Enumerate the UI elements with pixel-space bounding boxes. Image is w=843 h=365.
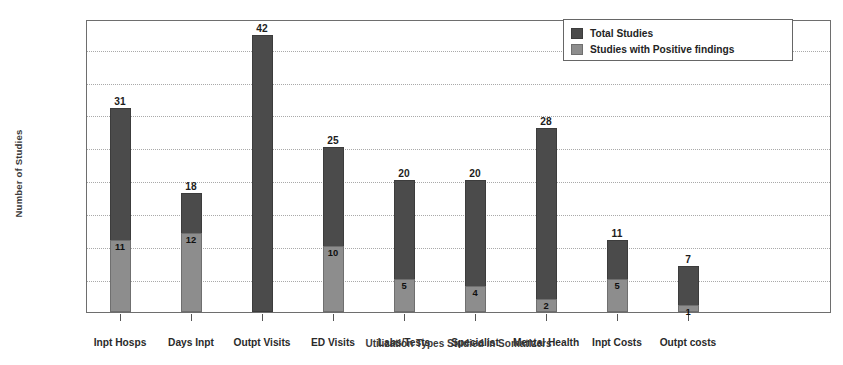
bar-group: 511 bbox=[607, 240, 628, 312]
chart-figure: Number of Studies 0510152025303540 Inpt … bbox=[0, 0, 843, 365]
gridline bbox=[87, 149, 830, 150]
legend-item-total: Total Studies bbox=[571, 25, 785, 41]
legend-swatch-positive-findings bbox=[571, 44, 583, 55]
bar-value-label-total: 11 bbox=[587, 228, 647, 239]
bar-value-label-total: 25 bbox=[303, 135, 363, 146]
legend-item-positive: Studies with Positive findings bbox=[571, 41, 785, 57]
bar-value-label-positive: 11 bbox=[90, 241, 150, 252]
legend-swatch-total-studies bbox=[571, 28, 583, 39]
bar-value-label-positive: 5 bbox=[374, 280, 434, 291]
y-axis-title: Number of Studies bbox=[13, 94, 24, 254]
x-axis-title: Utilization Types Studied in Somatizers bbox=[86, 338, 831, 349]
bar-value-label-total: 28 bbox=[516, 116, 576, 127]
x-tick bbox=[404, 314, 405, 321]
x-tick bbox=[191, 314, 192, 321]
bar-segment-total-studies bbox=[536, 128, 557, 312]
bar-value-label-total: 18 bbox=[161, 181, 221, 192]
bar-value-label-total: 31 bbox=[90, 96, 150, 107]
gridline bbox=[87, 116, 830, 117]
legend-label-positive-findings: Studies with Positive findings bbox=[590, 44, 734, 55]
bar-group: 42 bbox=[252, 35, 273, 312]
bar-group: 17 bbox=[678, 266, 699, 312]
bar-value-label-positive: 1 bbox=[658, 306, 718, 317]
bar-value-label-positive: 12 bbox=[161, 234, 221, 245]
bar-group: 1025 bbox=[323, 147, 344, 312]
bar-group: 420 bbox=[465, 180, 486, 312]
bar-value-label-total: 7 bbox=[658, 254, 718, 265]
x-tick bbox=[120, 314, 121, 321]
x-tick bbox=[475, 314, 476, 321]
bar-group: 520 bbox=[394, 180, 415, 312]
bar-group: 228 bbox=[536, 128, 557, 312]
bar-value-label-positive: 5 bbox=[587, 280, 647, 291]
plot-area: 0510152025303540 Inpt HospsDays InptOutp… bbox=[86, 20, 831, 313]
bar-value-label-positive: 4 bbox=[445, 287, 505, 298]
legend-label-total-studies: Total Studies bbox=[590, 28, 653, 39]
bar-segment-total-studies bbox=[252, 35, 273, 312]
chart-legend: Total Studies Studies with Positive find… bbox=[563, 19, 793, 61]
x-tick bbox=[617, 314, 618, 321]
bar-value-label-positive: 10 bbox=[303, 247, 363, 258]
bar-value-label-total: 20 bbox=[374, 168, 434, 179]
x-tick bbox=[262, 314, 263, 321]
bar-group: 1131 bbox=[110, 108, 131, 312]
gridline bbox=[87, 84, 830, 85]
x-tick bbox=[546, 314, 547, 321]
bar-value-label-positive: 2 bbox=[516, 300, 576, 311]
bar-group: 1218 bbox=[181, 193, 202, 312]
bar-value-label-total: 20 bbox=[445, 168, 505, 179]
bar-value-label-total: 42 bbox=[232, 23, 292, 34]
x-tick bbox=[333, 314, 334, 321]
